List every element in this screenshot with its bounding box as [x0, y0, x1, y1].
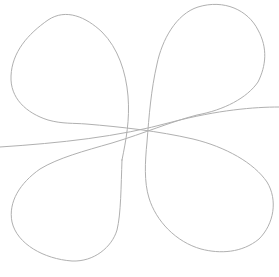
- quadrifolium-svg: [0, 0, 279, 277]
- secant-line: [0, 107, 279, 147]
- quadrifolium-curve: [11, 4, 273, 261]
- curve-figure: [0, 0, 279, 277]
